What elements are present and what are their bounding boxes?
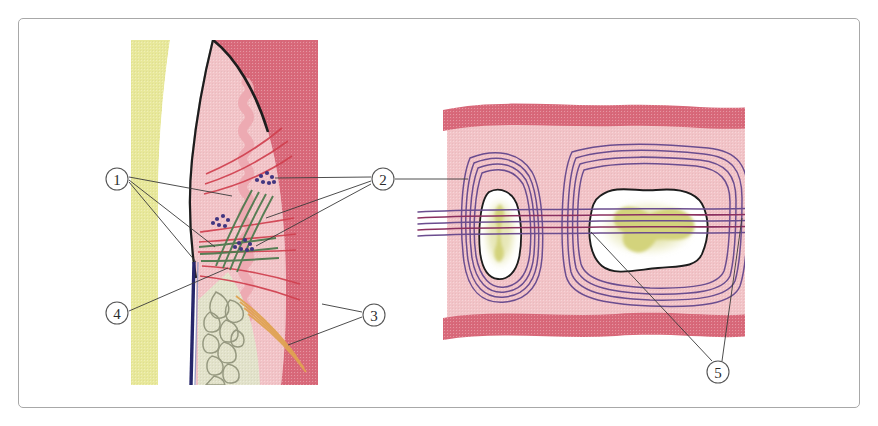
- figure-border-frame: [18, 18, 860, 408]
- figure-root: 1 2 3 4 5: [0, 0, 878, 426]
